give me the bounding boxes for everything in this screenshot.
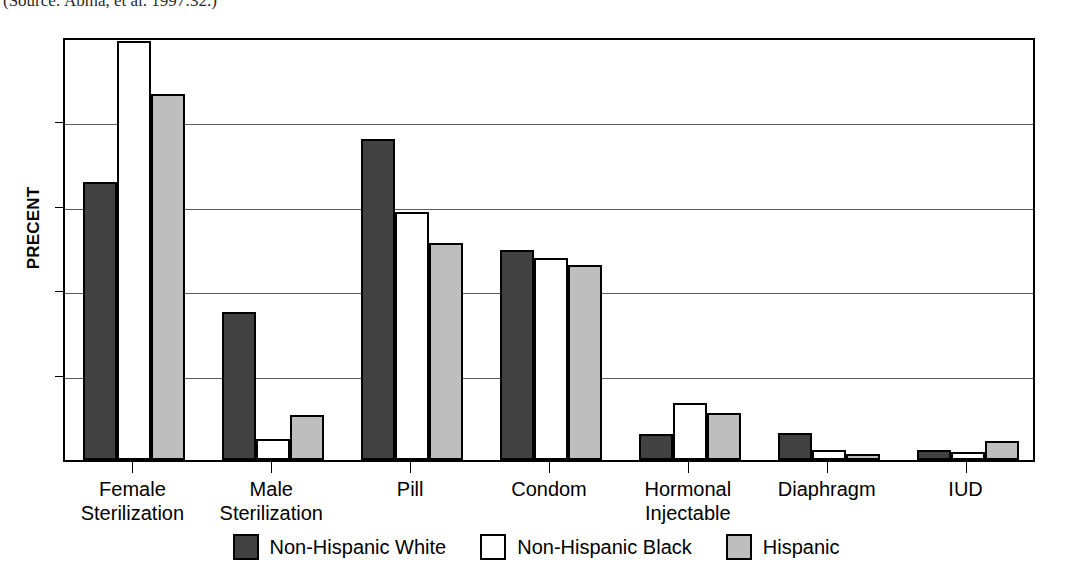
bar-group [65,40,204,460]
bar [951,452,985,460]
bar [639,434,673,460]
x-tick-mark [410,462,411,473]
x-tick-mark [966,462,967,473]
bar [151,94,185,460]
bar [117,41,151,460]
legend-label: Non-Hispanic Black [517,536,692,558]
bar [290,415,324,460]
bar [707,413,741,460]
x-tick-mark [271,462,272,473]
legend-label: Non-Hispanic White [270,536,447,558]
y-tick-mark [55,291,63,292]
legend-item: Hispanic [726,534,840,560]
bar [778,433,812,460]
y-tick-mark [55,207,63,208]
bar-group [620,40,759,460]
legend-label: Hispanic [763,536,840,558]
bar [361,139,395,460]
x-tick-mark [132,462,133,473]
legend-swatch [726,534,752,560]
bar [673,403,707,460]
bar [985,441,1019,460]
legend-swatch [233,534,259,560]
y-tick-mark [55,376,63,377]
bar [256,439,290,460]
bar-group [204,40,343,460]
bar-group [759,40,898,460]
bar [812,450,846,460]
x-tick-mark [827,462,828,473]
bar [429,243,463,460]
bar [222,312,256,460]
legend-item: Non-Hispanic Black [480,534,692,560]
y-axis-title: PRECENT [24,168,44,288]
bar-group [482,40,621,460]
plot-area [63,38,1035,462]
x-tick-mark [688,462,689,473]
bar [534,258,568,460]
legend-swatch [480,534,506,560]
y-tick-mark [55,122,63,123]
bar-group [898,40,1037,460]
bar [395,212,429,460]
x-tick-mark [549,462,550,473]
bar [568,265,602,460]
bar [500,250,534,460]
bar-chart: PRECENT 0510152025 Female SterilizationM… [0,0,1072,579]
chart-legend: Non-Hispanic WhiteNon-Hispanic BlackHisp… [0,534,1072,560]
bar [83,182,117,460]
legend-item: Non-Hispanic White [233,534,447,560]
bar-group [343,40,482,460]
bar [917,450,951,460]
bar [846,454,880,460]
x-tick-label: IUD [871,477,1061,501]
